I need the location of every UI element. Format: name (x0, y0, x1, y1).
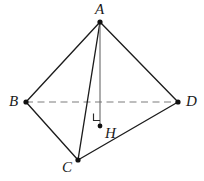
vertex-label-c: C (62, 160, 72, 175)
geometry-canvas (0, 0, 204, 181)
tetrahedron-figure: A B C D H (0, 0, 204, 181)
vertex-label-h: H (105, 126, 116, 141)
vertex-dot-c (75, 157, 80, 162)
edge-bc (26, 102, 78, 160)
vertex-dot-d (175, 99, 180, 104)
vertex-dot-a (97, 19, 102, 24)
vertex-dot-h (98, 124, 103, 129)
vertex-dot-b (23, 99, 28, 104)
edge-ad (100, 22, 178, 102)
vertex-label-b: B (9, 94, 18, 109)
vertex-label-a: A (95, 2, 104, 17)
edge-cd (78, 102, 178, 160)
right-angle-icon (94, 114, 101, 121)
vertex-label-d: D (186, 94, 197, 109)
